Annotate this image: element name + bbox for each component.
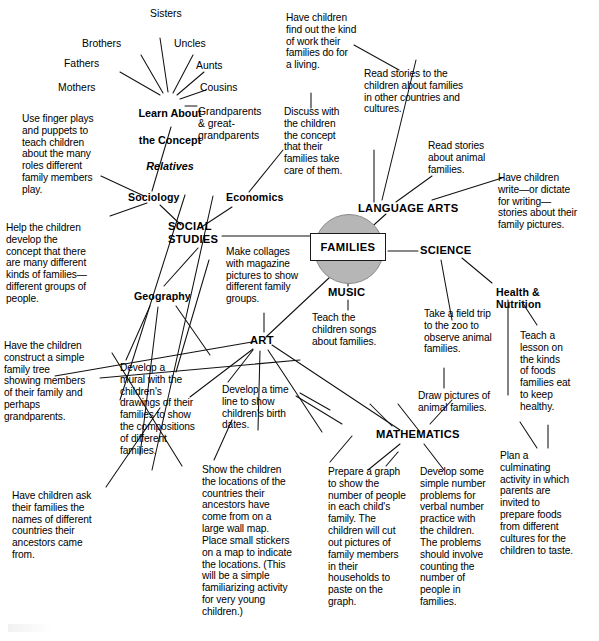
branch-music: MUSIC [328, 286, 365, 299]
activity-a11: Discuss with the children the concept th… [284, 106, 360, 177]
activity-a17: Teach a lesson on the kinds of foods fam… [520, 330, 584, 413]
subbranch-economics: Economics [226, 191, 283, 203]
concept-line-1: Learn About [138, 107, 201, 119]
spoke-sisters: Sisters [150, 8, 182, 20]
branch-art: ART [250, 334, 274, 347]
center-label-box: FAMILIES [310, 233, 386, 261]
spoke-cousins: Cousins [200, 82, 238, 94]
center-label-text: FAMILIES [321, 241, 376, 253]
activity-a19: Prepare a graph to show the number of pe… [328, 466, 420, 608]
spoke-fathers: Fathers [64, 58, 99, 70]
activity-a20: Develop some simple number problems for … [420, 466, 514, 608]
branch-science: SCIENCE [420, 244, 471, 257]
scan-artifact [8, 624, 54, 632]
activity-a8: Develop a time line to show children's b… [222, 384, 318, 431]
subbranch-geography: Geography [134, 290, 191, 302]
subbranch-health-nutrition: Health & Nutrition [496, 286, 556, 311]
spoke-grandparents: Grandparents & great- grandparents [198, 106, 288, 142]
activity-a7: Make collages with magazine pictures to … [226, 246, 308, 305]
activity-a1: Use finger plays and puppets to teach ch… [22, 113, 120, 196]
spoke-uncles: Uncles [174, 38, 206, 50]
activity-a13: Read stories about animal families. [428, 140, 500, 175]
activity-a3: Have the children construct a simple fam… [4, 340, 108, 423]
activity-a16: Draw pictures of animal families. [418, 390, 518, 414]
branch-language-arts: LANGUAGE ARTS [358, 202, 458, 215]
diagram-canvas: FAMILIES Learn About the Concept Relativ… [0, 0, 599, 641]
activity-a6: Show the children the locations of the c… [202, 464, 308, 618]
concept-line-2: the Concept [139, 134, 201, 146]
activity-a14: Have children write—or dictate for writi… [498, 172, 596, 231]
branch-social-studies: SOCIAL STUDIES [168, 220, 224, 246]
subbranch-sociology: Sociology [128, 191, 180, 203]
branch-mathematics: MATHEMATICS [376, 428, 460, 441]
activity-a15: Take a field trip to the zoo to observe … [424, 308, 514, 355]
activity-a12: Read stories to the children about famil… [364, 68, 484, 115]
activity-a2: Help the children develop the concept th… [6, 222, 112, 305]
activity-a10: Have children find out the kind of work … [286, 12, 374, 71]
center-node: FAMILIES [314, 214, 384, 284]
concept-line-3: Relatives [146, 160, 193, 172]
spoke-brothers: Brothers [82, 38, 121, 50]
spoke-aunts: Aunts [196, 60, 223, 72]
activity-a4: Have children ask their families the nam… [12, 490, 112, 561]
activity-a5: Develop a mural with the children's draw… [120, 362, 212, 457]
spoke-mothers: Mothers [58, 82, 96, 94]
activity-a9: Teach the children songs about families. [312, 312, 392, 347]
